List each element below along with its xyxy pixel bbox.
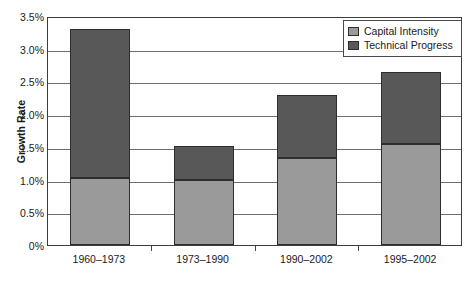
y-axis-tick-label: 0% <box>4 241 44 251</box>
x-axis-tickmark <box>358 246 359 251</box>
stacked-bar-chart: Growth Rate 0%0.5%1.0%1.5%2.0%2.5%3.0%3.… <box>0 0 468 288</box>
y-axis-tick-label: 2.5% <box>4 77 44 87</box>
y-axis-tick-labels: 0%0.5%1.0%1.5%2.0%2.5%3.0%3.5% <box>0 0 44 288</box>
bar[interactable] <box>174 146 234 245</box>
y-axis-tick-label: 3.5% <box>4 12 44 22</box>
bar-segment-technical-progress[interactable] <box>381 72 441 145</box>
bar-segment-capital-intensity[interactable] <box>277 158 337 245</box>
y-axis-tick-label: 0.5% <box>4 208 44 218</box>
x-axis-tick-label: 1995–2002 <box>360 253 460 265</box>
legend-swatch-technical-progress <box>348 41 359 50</box>
y-axis-tick-label: 1.0% <box>4 176 44 186</box>
bar-segment-capital-intensity[interactable] <box>70 178 130 245</box>
bar-segment-technical-progress[interactable] <box>70 29 130 178</box>
x-axis-tick-label: 1973–1990 <box>153 253 253 265</box>
bar[interactable] <box>381 72 441 245</box>
y-axis-tick-label: 3.0% <box>4 45 44 55</box>
legend-label-capital-intensity: Capital Intensity <box>364 26 439 37</box>
legend: Capital Intensity Technical Progress <box>343 20 462 57</box>
x-axis-tick-label: 1960–1973 <box>49 253 149 265</box>
legend-item-capital-intensity[interactable]: Capital Intensity <box>348 25 457 38</box>
y-axis-tick-label: 2.0% <box>4 110 44 120</box>
x-axis-tickmark <box>151 246 152 251</box>
x-axis-tickmark <box>255 246 256 251</box>
legend-label-technical-progress: Technical Progress <box>364 40 453 51</box>
bar[interactable] <box>277 95 337 245</box>
bar-segment-capital-intensity[interactable] <box>381 144 441 245</box>
x-axis-tick-label: 1990–2002 <box>256 253 356 265</box>
y-axis-tick-label: 1.5% <box>4 143 44 153</box>
bar-segment-technical-progress[interactable] <box>277 95 337 158</box>
bar-segment-capital-intensity[interactable] <box>174 180 234 245</box>
bar-segment-technical-progress[interactable] <box>174 146 234 181</box>
bar[interactable] <box>70 29 130 245</box>
legend-item-technical-progress[interactable]: Technical Progress <box>348 39 457 52</box>
legend-swatch-capital-intensity <box>348 27 359 36</box>
